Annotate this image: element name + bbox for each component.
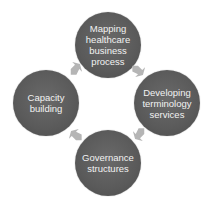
node-governance-structures: Governance structures xyxy=(75,130,141,196)
node-capacity-building: Capacity building xyxy=(13,70,79,136)
node-label: Developing terminology services xyxy=(142,87,191,120)
arrow-down-left-icon xyxy=(133,127,147,141)
arrow-down-right-icon xyxy=(131,63,145,77)
arrow-up-left-icon xyxy=(69,129,83,143)
arrow-up-right-icon xyxy=(68,62,82,76)
node-label: Capacity building xyxy=(28,92,65,114)
node-label: Mapping healthcare business process xyxy=(86,23,130,67)
node-label: Governance structures xyxy=(82,152,134,174)
